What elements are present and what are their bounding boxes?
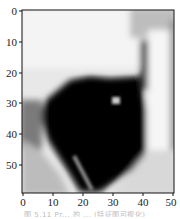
heatmap-image [20,8,176,195]
x-tick-label: 20 [78,196,90,208]
x-tick-label: 30 [108,196,120,208]
heatmap-figure: 0 10 20 30 40 50 0 10 20 30 40 50 [0,0,180,219]
y-axis: 0 10 20 30 40 50 [6,5,22,171]
x-axis: 0 10 20 30 40 50 [20,193,177,208]
y-tick-label: 20 [6,67,18,79]
y-tick-label: 0 [12,5,18,17]
x-tick-label: 40 [138,196,150,208]
x-tick-label: 10 [48,196,60,208]
figure-caption: 图 5.11 Pr... 的 ... (特征图可视化) [24,209,180,217]
y-tick-label: 30 [6,97,18,109]
x-tick-label: 0 [20,196,26,208]
x-tick-label: 50 [166,196,178,208]
y-tick-label: 10 [6,36,18,48]
y-tick-label: 50 [6,159,18,171]
y-tick-label: 40 [6,128,18,140]
